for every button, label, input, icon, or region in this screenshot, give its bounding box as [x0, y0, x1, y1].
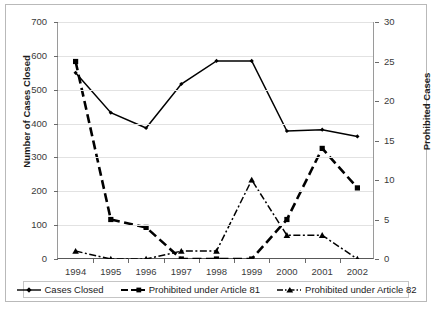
- left-axis-tick-label: 500: [31, 85, 47, 95]
- data-point-marker: [355, 134, 359, 138]
- x-axis-tick-label: 1997: [161, 267, 201, 277]
- left-axis-tick-label: 300: [31, 152, 47, 162]
- gridline: [58, 90, 373, 91]
- left-axis-tick-mark: [54, 259, 58, 260]
- left-axis-tick-label: 600: [31, 51, 47, 61]
- right-axis-tick-label: 15: [384, 136, 395, 146]
- right-axis-tick-label: 10: [384, 175, 395, 185]
- left-axis-tick-mark: [54, 56, 58, 57]
- data-point-marker: [73, 59, 78, 64]
- data-point-marker: [108, 217, 113, 222]
- gridline: [58, 56, 373, 57]
- legend-item-article-82[interactable]: Prohibited under Article 82: [268, 284, 424, 295]
- data-point-marker: [72, 248, 79, 254]
- data-point-marker: [355, 185, 360, 190]
- data-point-marker: [354, 256, 361, 259]
- data-point-marker: [214, 256, 219, 259]
- line-square-marker-icon: [120, 285, 146, 295]
- right-axis-tick-mark: [375, 22, 379, 23]
- x-axis-tick-mark: [199, 259, 200, 263]
- plot-area: 0100200300400500600700 051015202530 1994…: [57, 22, 374, 259]
- data-point-marker: [284, 217, 289, 222]
- series-line: [76, 61, 358, 136]
- right-axis-tick-label: 30: [384, 17, 395, 27]
- right-axis-tick-mark: [375, 259, 379, 260]
- series-line: [76, 62, 358, 260]
- x-axis-tick-label: 2002: [337, 267, 377, 277]
- x-axis-tick-label: 1999: [232, 267, 272, 277]
- left-axis-tick-mark: [54, 22, 58, 23]
- data-point-marker: [179, 256, 184, 259]
- x-axis-tick-mark: [340, 259, 341, 263]
- left-axis-tick-mark: [54, 191, 58, 192]
- data-point-marker: [178, 248, 185, 254]
- left-axis-tick-label: 200: [31, 186, 47, 196]
- legend-item-article-81[interactable]: Prohibited under Article 81: [112, 284, 268, 295]
- right-axis-tick-label: 25: [384, 57, 395, 67]
- data-point-marker: [320, 128, 324, 132]
- series-layer: [58, 22, 375, 259]
- series-1: [74, 59, 360, 139]
- left-axis-tick-mark: [54, 124, 58, 125]
- data-point-marker: [319, 232, 326, 238]
- gridline: [58, 191, 373, 192]
- gridline: [58, 124, 373, 125]
- x-axis-tick-mark: [164, 259, 165, 263]
- gridline: [58, 157, 373, 158]
- data-point-marker: [248, 177, 255, 183]
- x-axis-tick-mark: [93, 259, 94, 263]
- x-axis-tick-label: 1994: [56, 267, 96, 277]
- legend-label: Prohibited under Article 81: [149, 284, 260, 295]
- line-triangle-marker-icon: [276, 285, 302, 295]
- chart-legend: Cases Closed Prohibited under Article 81…: [23, 281, 409, 298]
- right-axis-tick-mark: [375, 62, 379, 63]
- gridline: [58, 22, 373, 23]
- x-axis-tick-mark: [269, 259, 270, 263]
- series-2: [73, 59, 360, 259]
- legend-label: Prohibited under Article 82: [305, 284, 416, 295]
- left-axis-tick-mark: [54, 157, 58, 158]
- left-axis-title: Number of Cases Closed: [21, 42, 32, 182]
- right-axis-tick-mark: [375, 180, 379, 181]
- x-axis-tick-label: 1996: [126, 267, 166, 277]
- legend-label: Cases Closed: [45, 284, 104, 295]
- x-axis-tick-label: 1998: [197, 267, 237, 277]
- right-axis-tick-label: 5: [384, 215, 389, 225]
- left-axis-tick-mark: [54, 225, 58, 226]
- series-3: [72, 177, 360, 259]
- right-axis-title: Prohibited Cases: [421, 42, 432, 182]
- x-axis-tick-mark: [305, 259, 306, 263]
- right-axis-tick-label: 0: [384, 254, 389, 264]
- left-axis-tick-mark: [54, 90, 58, 91]
- gridline: [58, 225, 373, 226]
- right-axis-tick-mark: [375, 101, 379, 102]
- legend-item-cases-closed[interactable]: Cases Closed: [8, 284, 112, 295]
- x-axis-tick-label: 1995: [91, 267, 131, 277]
- left-axis-tick-label: 400: [31, 119, 47, 129]
- right-axis-tick-mark: [375, 220, 379, 221]
- left-axis-tick-label: 700: [31, 17, 47, 27]
- x-axis-tick-label: 2000: [267, 267, 307, 277]
- data-point-marker: [249, 256, 254, 259]
- x-axis-tick-mark: [234, 259, 235, 263]
- x-axis-tick-mark: [128, 259, 129, 263]
- data-point-marker: [320, 146, 325, 151]
- right-axis-tick-label: 20: [384, 96, 395, 106]
- left-axis-tick-label: 100: [31, 220, 47, 230]
- right-axis-tick-mark: [375, 141, 379, 142]
- line-diamond-marker-icon: [16, 285, 42, 295]
- x-axis-tick-label: 2001: [302, 267, 342, 277]
- left-axis-tick-label: 0: [42, 254, 47, 264]
- chart-page: Number of Cases Closed Prohibited Cases …: [0, 0, 434, 309]
